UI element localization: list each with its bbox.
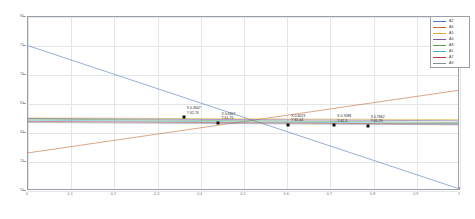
y-axis-tick-label: 80 <box>12 14 24 18</box>
data-tip-x-value: X 0.3607 <box>187 106 201 110</box>
legend-item-label: A8 <box>449 43 453 47</box>
data-marker[interactable] <box>217 121 220 124</box>
legend[interactable]: A2A6A5A4A8A1A7A3 <box>430 16 470 68</box>
x-axis-tick-label: 0.9 <box>413 192 418 196</box>
x-axis-tick-label: 0.8 <box>370 192 375 196</box>
legend-color-swatch <box>433 27 446 28</box>
legend-item-label: A5 <box>449 31 453 35</box>
legend-item-a3[interactable]: A3 <box>431 60 469 66</box>
series-line-a2 <box>28 46 458 189</box>
legend-color-swatch <box>433 45 446 46</box>
legend-color-swatch <box>433 39 446 40</box>
legend-color-swatch <box>433 33 446 34</box>
y-axis-tick-label: 70 <box>12 72 24 76</box>
data-tip-y-value: Y 61.44 <box>291 118 305 122</box>
legend-color-swatch <box>433 51 446 52</box>
x-axis-tick-label: 0.2 <box>111 192 116 196</box>
x-axis-tick-label: 0.1 <box>68 192 73 196</box>
x-axis-tick-label: 0 <box>26 192 28 196</box>
data-tip: X 0.7862Y 61.29 <box>371 115 385 124</box>
legend-item-label: A7 <box>449 55 453 59</box>
data-tip: X 0.3607Y 62.74 <box>187 106 201 115</box>
data-tip: X 0.6023Y 61.44 <box>291 114 305 123</box>
data-tip-y-value: Y 62.74 <box>187 111 201 115</box>
legend-color-swatch <box>433 21 446 22</box>
x-axis-tick-label: 0.4 <box>197 192 202 196</box>
data-tip: X 0.7088Y 61.3 <box>337 114 351 123</box>
y-axis-tick-label: 60 <box>12 130 24 134</box>
legend-item-label: A3 <box>449 61 453 65</box>
gridline-horizontal <box>28 191 458 192</box>
legend-color-swatch <box>433 63 446 64</box>
x-axis-tick-label: 0.3 <box>154 192 159 196</box>
data-tip-y-value: Y 61.75 <box>221 116 235 120</box>
x-axis-tick-label: 1 <box>458 192 460 196</box>
legend-item-label: A6 <box>449 25 453 29</box>
y-axis-tick-label: 50 <box>12 188 24 192</box>
legend-item-label: A2 <box>449 19 453 23</box>
x-axis-tick-label: 0.6 <box>284 192 289 196</box>
data-tip-y-value: Y 61.3 <box>337 119 351 123</box>
data-marker[interactable] <box>333 124 336 127</box>
figure-canvas: 50556065707580 00.10.20.30.40.50.60.70.8… <box>0 0 475 219</box>
legend-color-swatch <box>433 57 446 58</box>
data-marker[interactable] <box>287 123 290 126</box>
data-marker[interactable] <box>182 116 185 119</box>
series-lines <box>28 17 458 189</box>
x-axis-tick-label: 0.5 <box>240 192 245 196</box>
legend-item-label: A1 <box>449 49 453 53</box>
data-tip: X 0.4407Y 61.75 <box>221 112 235 121</box>
legend-item-label: A4 <box>449 37 453 41</box>
x-axis-tick-label: 0.7 <box>327 192 332 196</box>
y-axis-tick-label: 75 <box>12 43 24 47</box>
plot-area[interactable]: X 0.3607Y 62.74X 0.4407Y 61.75X 0.6023Y … <box>27 16 459 190</box>
data-tip-y-value: Y 61.29 <box>371 119 385 123</box>
y-axis-tick-label: 65 <box>12 101 24 105</box>
y-axis-tick-label: 55 <box>12 159 24 163</box>
data-marker[interactable] <box>366 124 369 127</box>
